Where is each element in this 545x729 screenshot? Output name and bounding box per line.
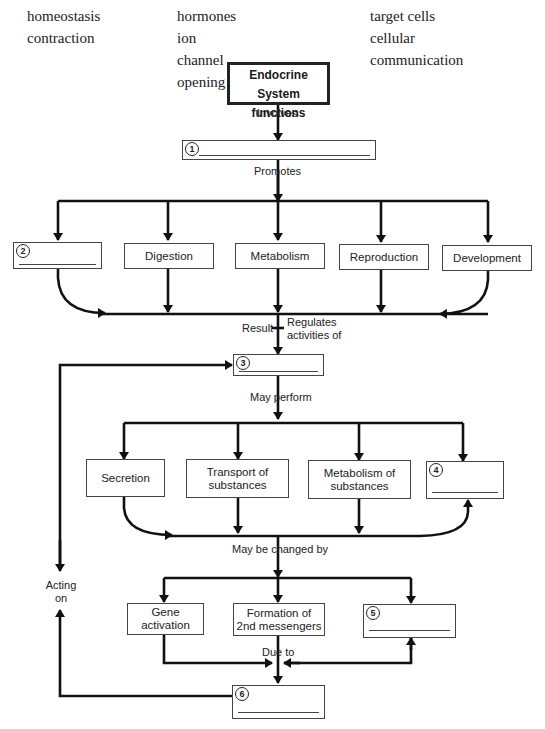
blank-number-4: 4	[429, 463, 443, 477]
blank-box-5[interactable]: 5	[363, 604, 456, 638]
blank-number-5: 5	[366, 606, 380, 620]
endocrine-system-title-box: Endocrine System functions	[227, 62, 330, 105]
blank-number-3: 3	[236, 356, 250, 370]
label-acting-on: Acting on	[45, 579, 77, 605]
gene-line-1: Gene	[151, 606, 179, 619]
transport-line-2: substances	[208, 479, 266, 492]
blank-box-4[interactable]: 4	[426, 461, 504, 499]
formation-line-1: Formation of	[247, 607, 312, 620]
box-formation-of-2nd-messengers: Formation of 2nd messengers	[233, 603, 325, 636]
box-reproduction: Reproduction	[339, 244, 429, 270]
blank-box-6[interactable]: 6	[232, 685, 325, 719]
blank-box-3[interactable]: 3	[233, 354, 324, 376]
box-metabolism-of-substances: Metabolism of substances	[308, 460, 411, 499]
answer-line-2[interactable]	[19, 264, 96, 265]
metabolism-line-1: Metabolism of	[324, 467, 396, 480]
box-transport-of-substances: Transport of substances	[186, 459, 289, 498]
label-regulates-line-2: activities of	[287, 329, 341, 342]
answer-line-3[interactable]	[239, 371, 318, 372]
label-due-to: Due to	[262, 646, 294, 659]
box-development: Development	[442, 245, 532, 271]
blank-number-2: 2	[16, 244, 30, 258]
answer-line-5[interactable]	[369, 630, 450, 631]
label-regulates: Regulates activities of	[287, 316, 341, 342]
label-may-perform: May perform	[250, 391, 312, 404]
box-secretion: Secretion	[86, 459, 165, 497]
box-metabolism: Metabolism	[235, 243, 325, 269]
label-promotes: Promotes	[254, 165, 301, 178]
transport-line-1: Transport of	[207, 466, 269, 479]
label-involves: Involves	[257, 107, 297, 120]
blank-box-1[interactable]: 1	[182, 140, 376, 160]
gene-line-2: activation	[141, 619, 190, 632]
answer-line-4[interactable]	[432, 492, 498, 493]
answer-line-1[interactable]	[199, 155, 370, 156]
label-result: Result	[242, 322, 273, 335]
label-acting-line-1: Acting	[45, 579, 77, 592]
blank-box-2[interactable]: 2	[13, 242, 102, 269]
blank-number-6: 6	[235, 687, 249, 701]
label-acting-line-2: on	[45, 592, 77, 605]
metabolism-line-2: substances	[330, 480, 388, 493]
secretion-label: Secretion	[101, 472, 150, 485]
box-digestion: Digestion	[124, 243, 214, 269]
box-gene-activation: Gene activation	[127, 603, 204, 635]
blank-number-1: 1	[185, 142, 199, 156]
label-may-be-changed-by: May be changed by	[232, 543, 328, 556]
title-line-1: Endocrine System	[230, 66, 327, 104]
label-regulates-line-1: Regulates	[287, 316, 341, 329]
answer-line-6[interactable]	[238, 712, 319, 713]
formation-line-2: 2nd messengers	[236, 620, 321, 633]
